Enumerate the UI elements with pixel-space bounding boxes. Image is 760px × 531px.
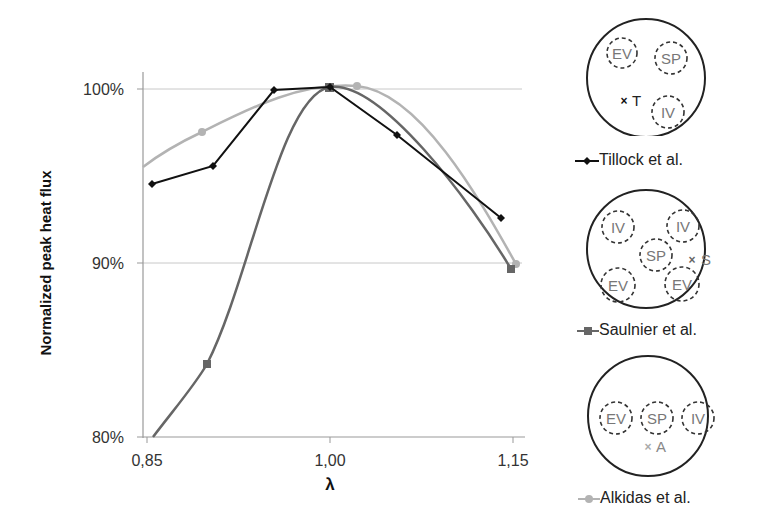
legend-item-tillock: Tillock et al.: [575, 151, 683, 169]
x-tick-100: 1,00: [314, 452, 345, 469]
valve-label: SP: [647, 410, 667, 427]
sensor-label: A: [656, 438, 666, 455]
valve-label: EV: [608, 277, 628, 294]
series-saulnier-line: [153, 87, 511, 437]
valve-label: IV: [611, 219, 625, 236]
diamond-marker-icon: [575, 156, 599, 166]
sensor-x-icon: ×: [644, 440, 651, 454]
legend-label: Tillock et al.: [599, 151, 683, 168]
line-chart: 100% 90% 80% 0,85 1,00 1,15 Normalized p…: [0, 0, 560, 531]
series-tillock-line: [152, 87, 501, 218]
saulnier-point: [507, 265, 515, 273]
tillock-points: [148, 83, 505, 222]
alkidas-point: [198, 128, 206, 136]
sensor-x-icon: ×: [688, 253, 695, 267]
y-tick-80: 80%: [92, 429, 124, 446]
sensor-x-icon: ×: [620, 94, 627, 108]
y-tick-90: 90%: [92, 255, 124, 272]
legend-label: Alkidas et al.: [600, 489, 691, 506]
legend-item-saulnier: Saulnier et al.: [577, 321, 697, 339]
tillock-layout-diagram: EV SP IV × T: [582, 16, 732, 136]
x-tick-085: 0,85: [131, 452, 162, 469]
valve-label: SP: [646, 247, 666, 264]
valve-label: IV: [661, 104, 675, 121]
valve-label: IV: [676, 218, 690, 235]
saulnier-point: [203, 360, 211, 368]
alkidas-point: [353, 82, 361, 90]
x-tick-115: 1,15: [497, 452, 528, 469]
alkidas-layout-diagram: EV SP IV × A: [582, 354, 732, 479]
valve-label: IV: [691, 410, 705, 427]
valve-label: EV: [612, 45, 632, 62]
saulnier-layout-diagram: IV IV SP EV EV × S: [582, 187, 732, 312]
y-axis-title: Normalized peak heat flux: [37, 170, 54, 356]
series-alkidas-line: [143, 86, 516, 264]
circle-marker-icon: [578, 494, 600, 504]
valve-label: EV: [606, 410, 626, 427]
valve-label: SP: [661, 50, 681, 67]
legend-item-alkidas: Alkidas et al.: [578, 489, 691, 507]
legend-label: Saulnier et al.: [599, 321, 697, 338]
y-tick-100: 100%: [83, 81, 124, 98]
valve-label: EV: [672, 276, 692, 293]
sensor-label: S: [701, 251, 711, 268]
square-marker-icon: [577, 326, 599, 336]
x-axis-title: λ: [325, 475, 335, 494]
sensor-label: T: [632, 92, 641, 109]
